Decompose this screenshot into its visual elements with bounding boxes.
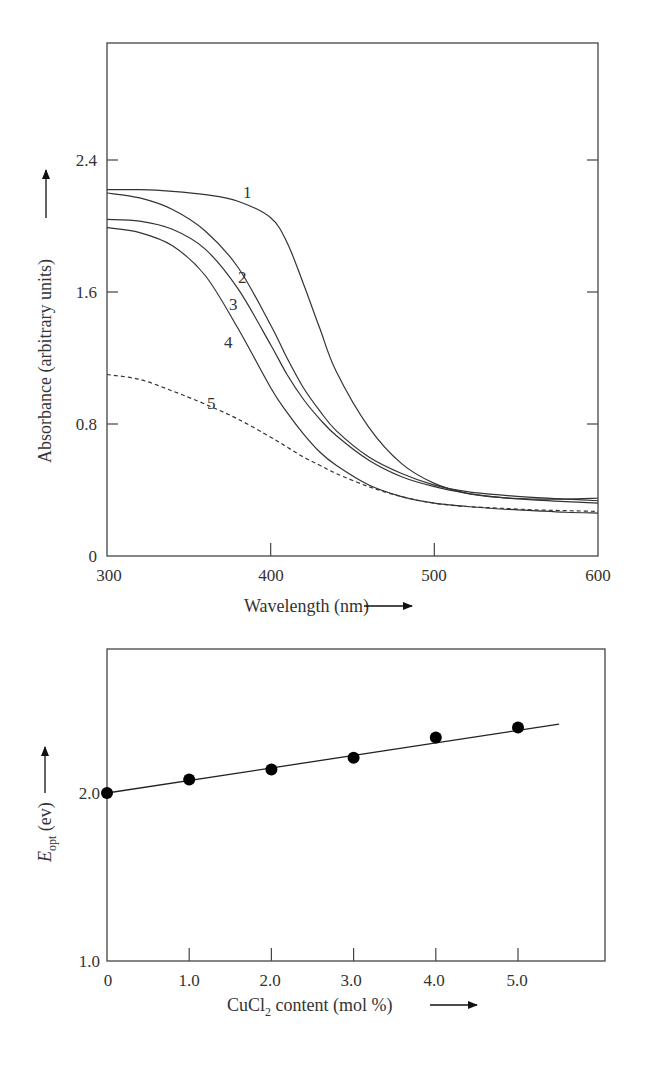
y-tick-labels: 2.4 1.6 0.8 0: [76, 151, 98, 566]
y-axis-title: Eopt (ev): [35, 802, 59, 863]
axis-ticks: [189, 948, 518, 961]
x-tick-labels: 300 400 500 600: [96, 566, 611, 585]
data-point: [348, 752, 360, 764]
plot-frame: [107, 43, 598, 556]
x-tick-label: 500: [421, 566, 447, 585]
x-tick-label: 600: [585, 566, 611, 585]
x-tick-label: 5.0: [506, 971, 527, 990]
data-point: [512, 721, 524, 733]
x-axis-title-main: CuCl: [227, 995, 265, 1015]
data-point: [183, 774, 195, 786]
y-tick-label: 2.0: [79, 784, 100, 803]
curve-4: [107, 228, 598, 513]
x-tick-label: 4.0: [423, 971, 444, 990]
curve-label-5: 5: [207, 394, 216, 413]
curve-5: [107, 375, 598, 512]
y-tick-label: 1.0: [79, 952, 100, 971]
x-tick-label: 300: [96, 566, 122, 585]
y-tick-label: 0.8: [76, 415, 97, 434]
absorbance-chart: 2.4 1.6 0.8 0 300 400 500 600 Wavelength…: [35, 43, 611, 617]
y-axis-title: Absorbance (arbitrary units): [35, 259, 56, 463]
eopt-chart: 2.0 1.0 0 1.0 2.0 3.0 4.0 5.0 CuCl2 cont…: [35, 649, 605, 1019]
data-point: [101, 787, 113, 799]
x-axis-title-rest: content (mol %): [271, 995, 392, 1016]
curve-label-1: 1: [243, 183, 252, 202]
x-tick-label: 2.0: [259, 971, 280, 990]
y-tick-label: 2.4: [76, 151, 98, 170]
y-tick-labels: 2.0 1.0: [79, 784, 100, 971]
curve-label-3: 3: [229, 295, 238, 314]
y-axis-title-rest: (ev): [35, 802, 56, 835]
x-tick-label: 0: [104, 971, 113, 990]
y-axis-title-sub: opt: [45, 835, 59, 851]
fit-line: [107, 724, 559, 793]
x-axis-title: CuCl2 content (mol %): [227, 995, 392, 1019]
eopt-data: [101, 721, 559, 799]
curve-label-2: 2: [238, 268, 247, 287]
x-tick-label: 400: [258, 566, 284, 585]
curve-label-4: 4: [224, 333, 233, 352]
y-axis-title-main: E: [35, 851, 55, 863]
x-tick-label: 3.0: [340, 971, 361, 990]
curve-1: [107, 190, 598, 500]
curve-labels: 1 2 3 4 5: [207, 183, 252, 413]
y-tick-label: 0: [89, 547, 98, 566]
data-point: [265, 763, 277, 775]
x-tick-labels: 0 1.0 2.0 3.0 4.0 5.0: [104, 971, 528, 990]
x-tick-label: 1.0: [178, 971, 199, 990]
data-point: [430, 732, 442, 744]
plot-frame: [107, 649, 605, 961]
y-tick-label: 1.6: [76, 283, 97, 302]
curve-2: [107, 193, 598, 501]
absorbance-curves: [107, 190, 598, 514]
curve-3: [107, 219, 598, 503]
x-axis-title: Wavelength (nm): [244, 596, 369, 617]
figure: 2.4 1.6 0.8 0 300 400 500 600 Wavelength…: [0, 0, 646, 1067]
